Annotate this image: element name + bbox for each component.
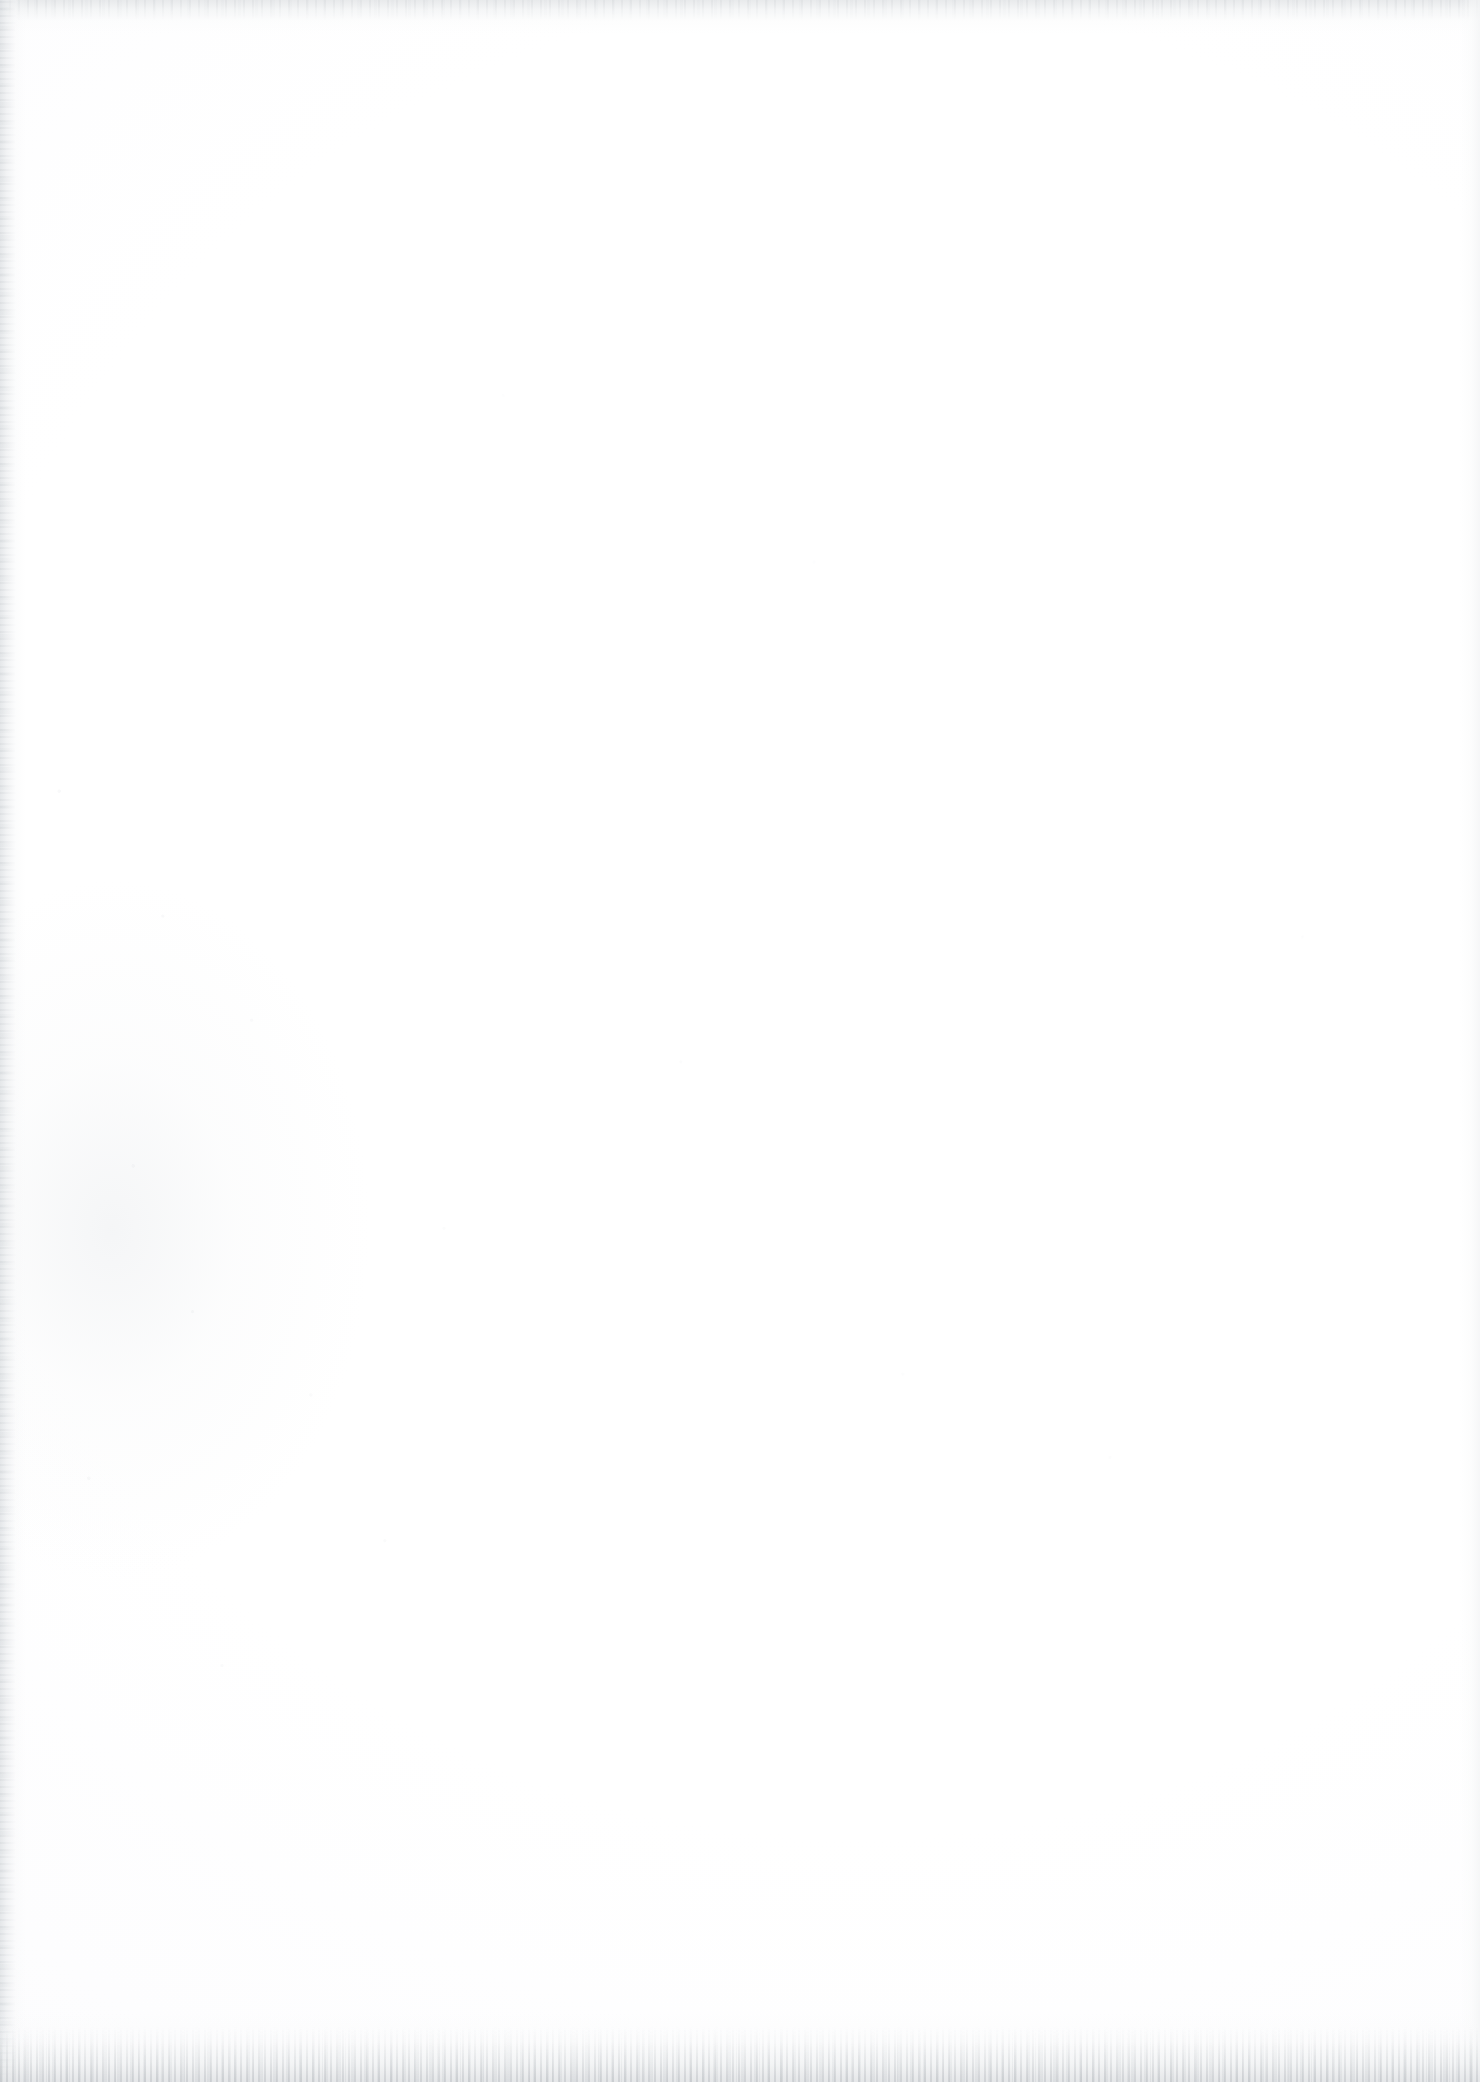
right-edge-artifact [1460,0,1480,2082]
scanned-page [0,0,1480,2082]
left-edge-speckle [0,0,16,2082]
top-edge-speckle [0,0,1480,20]
bottom-edge-speckle [0,2026,1480,2082]
page-content-area [96,110,1384,1952]
